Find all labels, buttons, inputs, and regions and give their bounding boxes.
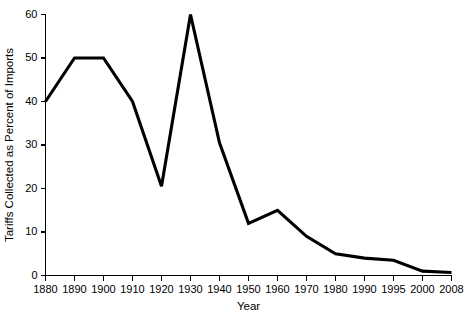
x-tick-label: 1940 (207, 283, 231, 295)
y-tick-label: 0 (31, 269, 37, 281)
x-tick-label: 1970 (294, 283, 318, 295)
x-tick-label: 1995 (381, 283, 405, 295)
x-axis-ticks (46, 276, 452, 281)
x-axis-tick-labels: 1880189019001910192019301940195019601970… (33, 283, 463, 295)
y-tick-label: 10 (25, 225, 37, 237)
x-tick-label: 1950 (236, 283, 260, 295)
y-axis-tick-labels: 0102030405060 (25, 8, 37, 281)
x-tick-label: 1990 (352, 283, 376, 295)
y-axis-title: Tariffs Collected as Percent of Imports (3, 48, 15, 242)
x-tick-label: 1930 (178, 283, 202, 295)
x-tick-label: 1880 (33, 283, 57, 295)
x-tick-label: 1890 (62, 283, 86, 295)
y-tick-label: 50 (25, 51, 37, 63)
chart-figure: 0102030405060 18801890190019101920193019… (0, 0, 464, 321)
y-tick-label: 30 (25, 138, 37, 150)
line-chart: 0102030405060 18801890190019101920193019… (0, 0, 464, 321)
x-tick-label: 2008 (439, 283, 463, 295)
y-axis-ticks (41, 15, 46, 276)
y-tick-label: 60 (25, 8, 37, 20)
y-tick-label: 40 (25, 95, 37, 107)
x-tick-label: 1920 (149, 283, 173, 295)
y-tick-label: 20 (25, 182, 37, 194)
x-tick-label: 1980 (323, 283, 347, 295)
x-tick-label: 1960 (265, 283, 289, 295)
data-series-line (46, 15, 452, 273)
x-tick-label: 1900 (91, 283, 115, 295)
x-axis-title: Year (237, 300, 260, 312)
x-tick-label: 2000 (410, 283, 434, 295)
x-tick-label: 1910 (120, 283, 144, 295)
